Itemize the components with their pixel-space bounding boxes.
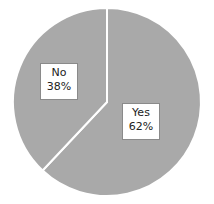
- data-label-no: No 38%: [40, 63, 78, 100]
- label-no-pct: 38%: [41, 80, 77, 94]
- pie-chart: [0, 0, 214, 204]
- label-yes-name: Yes: [123, 106, 159, 120]
- data-label-yes: Yes 62%: [122, 103, 160, 140]
- label-yes-pct: 62%: [123, 120, 159, 134]
- label-no-name: No: [41, 66, 77, 80]
